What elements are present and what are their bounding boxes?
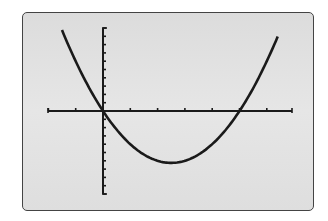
parabola-curve: [62, 30, 278, 163]
graph-plot: [0, 0, 328, 221]
axes: [48, 28, 292, 194]
